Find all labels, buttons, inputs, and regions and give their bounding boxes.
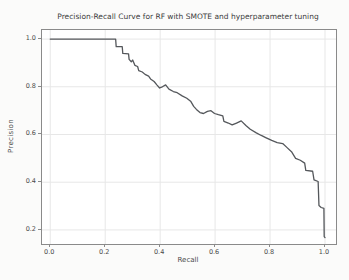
x-tick-label: 0.4 [154,248,164,256]
pr-curve-plot-svg [42,30,336,244]
x-tick-mark [324,244,325,247]
y-tick-mark [38,229,41,230]
x-tick-mark [269,244,270,247]
precision-recall-curve [50,39,325,237]
x-tick-label: 1.0 [319,248,329,256]
x-axis-label: Recall [41,256,335,264]
x-tick-label: 0.2 [99,248,109,256]
y-tick-label: 0.4 [26,177,36,185]
y-tick-mark [38,86,41,87]
y-axis-label: Precision [6,29,16,243]
y-tick-mark [38,38,41,39]
y-tick-label: 0.8 [26,82,36,90]
y-tick-label: 0.2 [26,225,36,233]
plot-area [41,29,337,245]
x-tick-label: 0.6 [209,248,219,256]
x-tick-mark [214,244,215,247]
chart-title: Precision-Recall Curve for RF with SMOTE… [41,12,335,21]
x-tick-mark [159,244,160,247]
y-tick-label: 0.6 [26,129,36,137]
y-tick-mark [38,133,41,134]
x-tick-label: 0.0 [44,248,54,256]
x-tick-mark [49,244,50,247]
x-tick-label: 0.8 [264,248,274,256]
x-tick-mark [104,244,105,247]
pr-curve-figure: Precision-Recall Curve for RF with SMOTE… [0,0,349,280]
y-tick-mark [38,181,41,182]
y-tick-label: 1.0 [26,34,36,42]
